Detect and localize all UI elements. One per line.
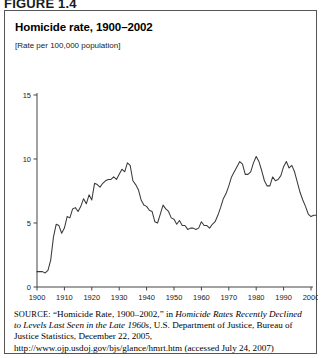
svg-text:10: 10 [23, 155, 31, 164]
source-label: SOURCE: [14, 310, 51, 319]
svg-text:5: 5 [27, 219, 31, 228]
svg-text:1910: 1910 [56, 293, 73, 302]
source-text-part1: “Homicide Rate, 1900–2002,” in [51, 309, 176, 319]
svg-text:1940: 1940 [138, 293, 155, 302]
svg-text:1900: 1900 [29, 293, 46, 302]
svg-text:1970: 1970 [220, 293, 237, 302]
svg-text:1990: 1990 [275, 293, 292, 302]
svg-text:1980: 1980 [248, 293, 265, 302]
svg-text:2000: 2000 [303, 293, 318, 302]
homicide-rate-line-chart: 0510151900191019201930194019501960197019… [5, 11, 318, 355]
svg-text:0: 0 [27, 283, 31, 292]
figure-box: Homicide rate, 1900–2002 [Rate per 100,0… [4, 10, 317, 354]
source-note: SOURCE: “Homicide Rate, 1900–2002,” in H… [14, 309, 311, 354]
chart-axes [34, 93, 314, 291]
svg-text:1950: 1950 [166, 293, 183, 302]
svg-text:1930: 1930 [111, 293, 128, 302]
svg-text:1920: 1920 [83, 293, 100, 302]
chart-tick-labels: 0510151900191019201930194019501960197019… [23, 91, 318, 302]
svg-text:1960: 1960 [193, 293, 210, 302]
plot-area: 0510151900191019201930194019501960197019… [5, 11, 318, 355]
svg-text:15: 15 [23, 91, 31, 100]
data-line-homicide-rate [37, 156, 316, 272]
